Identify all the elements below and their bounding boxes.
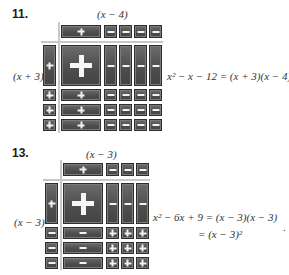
unit-tile-positive: [121, 257, 134, 269]
plus-icon: [124, 245, 131, 252]
minus-icon: [80, 232, 87, 234]
minus-icon: [137, 31, 144, 33]
minus-icon: [122, 31, 129, 33]
unit-tile-negative: [119, 119, 132, 131]
minus-icon: [122, 94, 129, 96]
plus-icon: [78, 92, 85, 99]
minus-icon: [152, 109, 159, 111]
unit-tile-negative: [45, 227, 58, 239]
minus-icon: [107, 109, 114, 111]
vertical-divider: [58, 22, 60, 133]
x-tile-positive: [43, 45, 56, 86]
problem-11-number: 11.: [12, 7, 28, 21]
minus-icon: [137, 124, 144, 126]
unit-tile-negative: [149, 89, 162, 101]
unit-tile-negative: [104, 89, 117, 101]
minus-icon: [109, 203, 116, 205]
unit-tile-negative: [149, 119, 162, 131]
unit-tile-negative: [119, 25, 132, 38]
unit-tile-positive: [121, 227, 134, 239]
plus-icon: [46, 62, 53, 69]
x-tile-positive: [61, 89, 101, 101]
minus-icon: [152, 31, 159, 33]
x-tile-positive: [61, 119, 101, 131]
unit-tile-positive: [106, 257, 119, 269]
x-tile-positive: [61, 104, 101, 116]
minus-icon: [107, 124, 114, 126]
unit-tile-negative: [45, 257, 58, 269]
plus-icon: [70, 55, 92, 77]
unit-tile-negative: [119, 89, 132, 101]
x-tile-positive: [45, 183, 58, 224]
plus-icon: [78, 107, 85, 114]
plus-icon: [78, 122, 85, 129]
problem-13-top-factor-label: (x − 3): [86, 148, 117, 160]
problem-13-equation-line-2: = (x − 3)²: [198, 228, 242, 240]
minus-icon: [80, 247, 87, 249]
unit-tile-negative: [106, 163, 119, 176]
minus-icon: [139, 169, 146, 171]
minus-icon: [107, 94, 114, 96]
minus-icon: [109, 169, 116, 171]
plus-icon: [124, 260, 131, 267]
x-tile-negative: [134, 45, 147, 86]
x-tile-negative: [63, 257, 103, 269]
x-tile-negative: [106, 183, 119, 224]
unit-tile-negative: [149, 104, 162, 116]
unit-tile-negative: [45, 242, 58, 254]
minus-icon: [124, 169, 131, 171]
unit-tile-positive: [136, 227, 149, 239]
x-tile-negative: [149, 45, 162, 86]
unit-tile-positive: [106, 227, 119, 239]
minus-icon: [48, 247, 55, 249]
minus-icon: [137, 65, 144, 67]
minus-icon: [137, 94, 144, 96]
unit-tile-positive: [121, 242, 134, 254]
problem-13-side-factor-label: (x − 3): [14, 216, 45, 228]
x-squared-tile-positive: [63, 183, 103, 224]
unit-tile-negative: [134, 119, 147, 131]
unit-tile-negative: [119, 104, 132, 116]
plus-icon: [109, 230, 116, 237]
minus-icon: [152, 65, 159, 67]
trailing-period: .: [283, 221, 286, 233]
minus-icon: [152, 124, 159, 126]
unit-tile-positive: [106, 242, 119, 254]
x-tile-negative: [63, 227, 103, 239]
minus-icon: [122, 124, 129, 126]
unit-tile-negative: [121, 163, 134, 176]
minus-icon: [137, 109, 144, 111]
unit-tile-negative: [136, 163, 149, 176]
unit-tile-negative: [104, 104, 117, 116]
x-tile-negative: [104, 45, 117, 86]
unit-tile-negative: [134, 25, 147, 38]
unit-tile-negative: [104, 119, 117, 131]
vertical-divider: [60, 160, 62, 270]
minus-icon: [48, 262, 55, 264]
unit-tile-negative: [134, 104, 147, 116]
x-tile-positive: [63, 163, 103, 176]
minus-icon: [48, 232, 55, 234]
x-tile-negative: [136, 183, 149, 224]
minus-icon: [122, 65, 129, 67]
unit-tile-negative: [149, 25, 162, 38]
unit-tile-positive: [136, 242, 149, 254]
problem-11-side-factor-label: (x + 3): [13, 70, 44, 82]
plus-icon: [109, 245, 116, 252]
plus-icon: [46, 107, 53, 114]
unit-tile-positive: [43, 89, 56, 101]
problem-11-top-factor-label: (x − 4): [97, 8, 128, 20]
x-tile-negative: [119, 45, 132, 86]
plus-icon: [78, 28, 85, 35]
x-tile-negative: [63, 242, 103, 254]
unit-tile-positive: [43, 119, 56, 131]
minus-icon: [80, 262, 87, 264]
minus-icon: [152, 94, 159, 96]
unit-tile-positive: [43, 104, 56, 116]
x-squared-tile-positive: [61, 45, 101, 86]
plus-icon: [139, 230, 146, 237]
plus-icon: [48, 200, 55, 207]
plus-icon: [124, 230, 131, 237]
minus-icon: [107, 31, 114, 33]
plus-icon: [109, 260, 116, 267]
